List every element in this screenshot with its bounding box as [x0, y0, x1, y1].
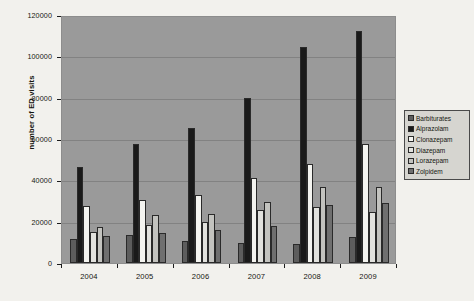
bar-alprazolam-2004 — [77, 167, 84, 263]
bar-clonazepam-2006 — [195, 195, 202, 263]
gridline — [62, 140, 396, 141]
bar-lorazepam-2004 — [97, 227, 104, 263]
x-tick-mark — [284, 264, 285, 268]
bar-clonazepam-2008 — [307, 164, 314, 263]
bar-diazepam-2004 — [90, 232, 97, 263]
bar-clonazepam-2005 — [139, 200, 146, 263]
x-tick-mark — [61, 264, 62, 268]
y-tick-label: 40000 — [0, 177, 52, 185]
legend-item-clonazepam: Clonazepam — [407, 134, 467, 145]
bar-alprazolam-2007 — [244, 98, 251, 263]
x-tick-mark — [173, 264, 174, 268]
y-tick-label: 120000 — [0, 12, 52, 20]
bar-barbiturates-2005 — [126, 235, 133, 263]
x-tick-label-2006: 2006 — [173, 272, 229, 281]
bar-alprazolam-2005 — [133, 144, 140, 263]
bar-barbiturates-2009 — [349, 237, 356, 263]
legend-item-alprazolam: Alprazolam — [407, 124, 467, 135]
y-tick-mark — [57, 140, 61, 141]
y-tick-label: 0 — [0, 260, 52, 268]
bar-barbiturates-2006 — [182, 241, 189, 263]
bar-clonazepam-2007 — [251, 178, 258, 263]
bar-alprazolam-2009 — [356, 31, 363, 264]
legend-label: Diazepam — [416, 147, 445, 154]
bar-zolpidem-2004 — [103, 236, 110, 263]
bar-diazepam-2009 — [369, 212, 376, 263]
y-tick-mark — [57, 16, 61, 17]
bar-zolpidem-2008 — [326, 205, 333, 263]
legend-label: Zolpidem — [416, 168, 443, 175]
x-tick-label-2004: 2004 — [61, 272, 117, 281]
bar-lorazepam-2008 — [320, 187, 327, 263]
gridline — [62, 223, 396, 224]
legend-label: Clonazepam — [416, 136, 453, 143]
legend-swatch-icon — [408, 126, 414, 132]
legend-label: Barbiturates — [416, 115, 451, 122]
bar-clonazepam-2009 — [362, 144, 369, 263]
bar-lorazepam-2006 — [208, 214, 215, 263]
x-tick-mark — [229, 264, 230, 268]
legend-item-zolpidem: Zolpidem — [407, 166, 467, 177]
x-tick-label-2007: 2007 — [228, 272, 284, 281]
y-tick-mark — [57, 57, 61, 58]
y-tick-mark — [57, 99, 61, 100]
gridline — [62, 181, 396, 182]
bar-barbiturates-2007 — [238, 243, 245, 263]
gridline — [62, 16, 396, 17]
plot-area — [61, 16, 396, 264]
bar-diazepam-2008 — [313, 207, 320, 263]
legend-label: Alprazolam — [416, 125, 449, 132]
bar-barbiturates-2004 — [70, 239, 77, 263]
legend-swatch-icon — [408, 115, 414, 121]
bar-diazepam-2007 — [257, 210, 264, 263]
bar-alprazolam-2006 — [188, 128, 195, 263]
legend-item-barbiturates: Barbiturates — [407, 113, 467, 124]
bar-lorazepam-2005 — [152, 215, 159, 263]
legend-item-diazepam: Diazepam — [407, 145, 467, 156]
legend-swatch-icon — [408, 147, 414, 153]
bar-lorazepam-2009 — [376, 187, 383, 263]
bar-diazepam-2005 — [146, 225, 153, 263]
x-tick-label-2009: 2009 — [340, 272, 396, 281]
y-axis-title: number of ED visits — [27, 58, 36, 168]
bar-zolpidem-2005 — [159, 233, 166, 263]
x-tick-mark — [340, 264, 341, 268]
legend-item-lorazepam: Lorazepam — [407, 155, 467, 166]
bar-lorazepam-2007 — [264, 202, 271, 263]
bar-zolpidem-2006 — [215, 230, 222, 263]
y-tick-mark — [57, 223, 61, 224]
x-tick-label-2005: 2005 — [117, 272, 173, 281]
bar-diazepam-2006 — [202, 222, 209, 263]
legend-swatch-icon — [408, 168, 414, 174]
chart-legend: BarbituratesAlprazolamClonazepamDiazepam… — [404, 110, 470, 180]
x-tick-mark — [117, 264, 118, 268]
bar-barbiturates-2008 — [293, 244, 300, 263]
gridline — [62, 99, 396, 100]
bar-alprazolam-2008 — [300, 47, 307, 263]
bar-zolpidem-2007 — [271, 226, 278, 263]
gridline — [62, 57, 396, 58]
y-tick-label: 20000 — [0, 219, 52, 227]
y-tick-mark — [57, 181, 61, 182]
legend-label: Lorazepam — [416, 157, 449, 164]
x-tick-label-2008: 2008 — [284, 272, 340, 281]
legend-swatch-icon — [408, 158, 414, 164]
bar-chart: 020000400006000080000100000120000 number… — [0, 0, 474, 301]
bar-clonazepam-2004 — [83, 206, 90, 263]
bar-zolpidem-2009 — [382, 203, 389, 263]
x-tick-mark — [396, 264, 397, 268]
legend-swatch-icon — [408, 136, 414, 142]
